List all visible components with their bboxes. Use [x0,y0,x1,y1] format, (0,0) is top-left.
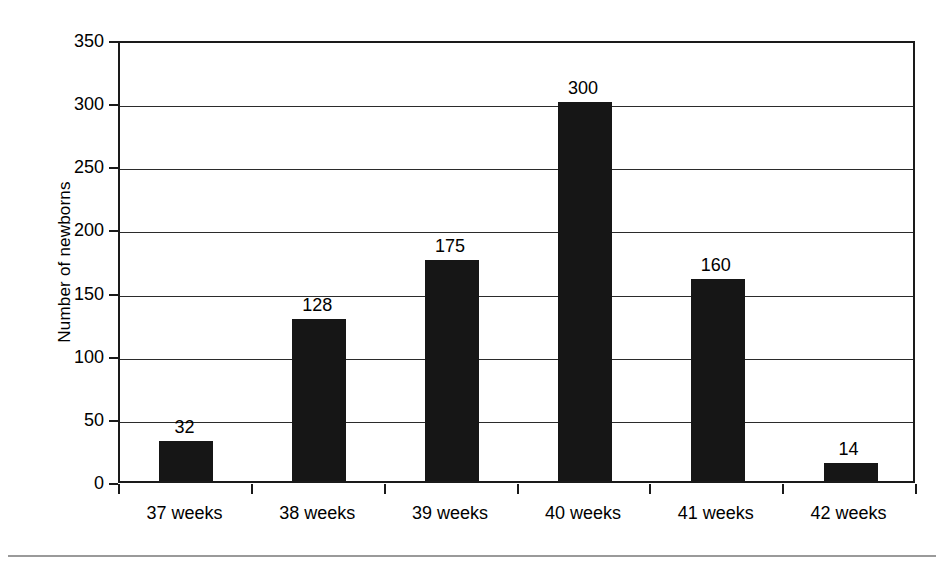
x-axis-category-label: 40 weeks [513,503,653,523]
bar-value-label: 32 [144,418,224,436]
bar-value-label: 300 [543,79,623,97]
x-axis-category-label: 42 weeks [779,503,919,523]
y-axis-tick [109,230,118,232]
y-axis-tick-label: 300 [56,95,104,113]
gridline [120,296,913,297]
y-axis-tick-label: 50 [56,411,104,429]
gridline [120,232,913,233]
x-axis-tick [384,484,386,494]
bar-value-label: 14 [809,440,889,458]
y-axis-tick [109,294,118,296]
bar-value-label: 160 [676,256,756,274]
y-axis-tick-label: 250 [56,158,104,176]
bar [159,441,213,481]
x-axis-tick [782,484,784,494]
x-axis-tick [517,484,519,494]
bar [425,260,479,481]
x-axis-tick [251,484,253,494]
bar-value-label: 128 [277,296,357,314]
bar [691,279,745,481]
y-axis-tick [109,357,118,359]
x-axis-category-label: 39 weeks [380,503,520,523]
gridline [120,169,913,170]
bar [292,319,346,481]
x-axis-tick [915,484,917,494]
y-axis-tick-label: 0 [56,474,104,492]
gridline [120,422,913,423]
x-axis-tick [118,484,120,494]
plot-area [118,41,915,483]
y-axis-tick [109,41,118,43]
y-axis-tick [109,483,118,485]
bottom-divider-rule [8,555,936,557]
y-axis-tick [109,104,118,106]
y-axis-tick-label: 200 [56,221,104,239]
bar [558,102,612,481]
y-axis-tick [109,420,118,422]
y-axis-tick-label: 100 [56,348,104,366]
chart-page: Number of newborns 050100150200250300350… [0,0,944,566]
bar [824,463,878,481]
x-axis-category-label: 37 weeks [114,503,254,523]
y-axis-tick [109,167,118,169]
y-axis-tick-label: 150 [56,285,104,303]
x-axis-category-label: 41 weeks [646,503,786,523]
bar-value-label: 175 [410,237,490,255]
gridline [120,359,913,360]
x-axis-tick [649,484,651,494]
x-axis-category-label: 38 weeks [247,503,387,523]
y-axis-tick-label: 350 [56,32,104,50]
gridline [120,106,913,107]
